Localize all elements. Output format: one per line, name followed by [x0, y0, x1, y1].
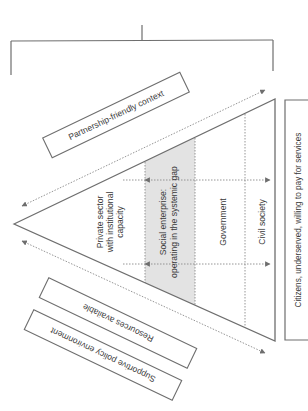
- social-enterprise-diagram: Partnership-friendly context Resources a…: [0, 0, 308, 411]
- svg-text:capacity: capacity: [115, 206, 125, 238]
- government-label: Government: [218, 198, 228, 246]
- partnership-context-label: Partnership-friendly context: [67, 88, 166, 142]
- svg-text:operating in the systemic gap: operating in the systemic gap: [169, 166, 179, 278]
- outer-arrows: [22, 90, 265, 353]
- top-bracket: [11, 25, 273, 75]
- svg-text:Social enterprise:: Social enterprise:: [158, 189, 168, 255]
- civil-society-label: Civil society: [257, 199, 267, 245]
- citizens-label: Citizens, underserved, willing to pay fo…: [294, 133, 303, 308]
- svg-text:Civil society: Civil society: [257, 199, 267, 245]
- svg-text:with institutional: with institutional: [105, 192, 115, 254]
- partnership-context-box: Partnership-friendly context: [43, 72, 190, 158]
- private-sector-label: Private sector with institutional capaci…: [95, 192, 125, 254]
- svg-text:Private sector: Private sector: [95, 196, 105, 249]
- svg-text:Government: Government: [218, 198, 228, 246]
- citizens-box: Citizens, underserved, willing to pay fo…: [285, 100, 308, 340]
